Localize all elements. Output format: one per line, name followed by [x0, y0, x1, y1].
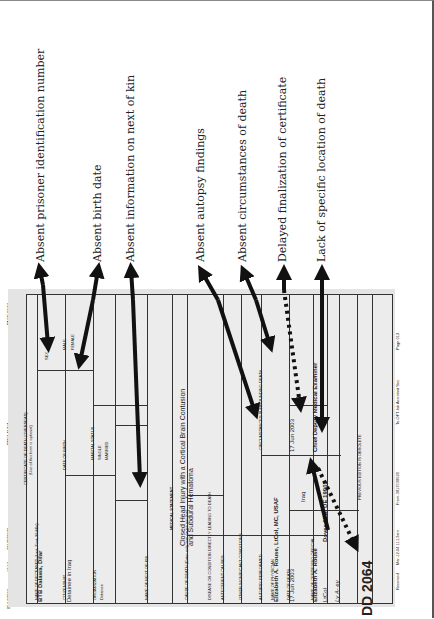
arrow-circumstances	[244, 272, 270, 345]
arrow-autopsy	[202, 272, 255, 412]
arrow-next-of-kin	[131, 270, 140, 480]
arrow-delayed-finalization	[284, 272, 355, 545]
arrow-birth-date	[80, 270, 98, 362]
arrow-prisoner-id	[40, 270, 48, 345]
annotation-arrows	[0, 0, 434, 619]
arrow-location	[312, 272, 328, 530]
